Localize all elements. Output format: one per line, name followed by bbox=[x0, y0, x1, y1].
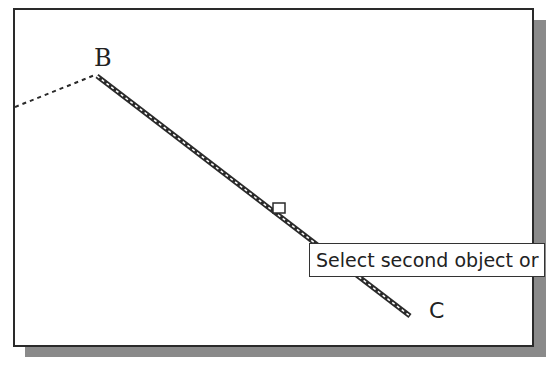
pickbox-cursor-icon bbox=[273, 203, 285, 213]
dashed-line-a-b[interactable] bbox=[15, 75, 95, 107]
drawing-canvas[interactable]: B C bbox=[13, 8, 534, 347]
drawing-svg bbox=[15, 10, 532, 345]
command-prompt-tooltip: Select second object or bbox=[309, 243, 545, 277]
point-label-b: B bbox=[94, 44, 112, 72]
point-label-c: C bbox=[429, 298, 444, 323]
